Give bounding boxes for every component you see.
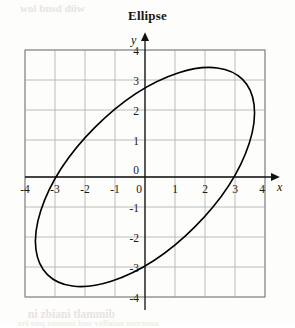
x-tick-label: 0 <box>136 183 142 195</box>
y-tick-label: -4 <box>129 292 139 304</box>
x-axis-label: x <box>276 180 283 194</box>
y-tick-label: 1 <box>133 135 139 147</box>
y-tick-label: 3 <box>133 75 139 87</box>
y-tick-label: 4 <box>133 45 139 57</box>
y-tick-label: -1 <box>129 202 139 214</box>
y-tick-label: 2 <box>133 105 139 117</box>
x-tick-label: 2 <box>202 183 208 195</box>
x-tick-label: 3 <box>232 183 238 195</box>
y-tick-labels: 4 3 2 1 0 -1 -2 -3 -4 <box>129 45 139 304</box>
y-tick-label: 0 <box>133 164 139 176</box>
x-tick-label: 1 <box>172 183 178 195</box>
y-tick-label: -2 <box>129 232 139 244</box>
x-tick-label: -2 <box>80 183 90 195</box>
x-tick-label: 4 <box>259 183 265 195</box>
x-tick-label: -1 <box>110 183 120 195</box>
x-tick-label: -4 <box>20 183 30 195</box>
